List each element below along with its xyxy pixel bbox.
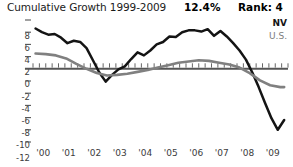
x-axis-tick-label: '05 bbox=[159, 148, 183, 158]
x-axis-tick-label: '00 bbox=[31, 148, 55, 158]
series-line-nv bbox=[36, 29, 285, 130]
x-axis-tick-label: '01 bbox=[57, 148, 81, 158]
x-axis-tick-label: '09 bbox=[261, 148, 285, 158]
series-line-us bbox=[36, 54, 285, 88]
chart-plot-area bbox=[0, 16, 293, 146]
x-axis-tick-label: '06 bbox=[184, 148, 208, 158]
page-title: Cumulative Growth 1999-2009 bbox=[7, 1, 166, 13]
chart-screenshot: Cumulative Growth 1999-2009 12.4% Rank: … bbox=[0, 0, 293, 167]
line-chart-svg bbox=[0, 16, 293, 146]
rank-badge: Rank: 4 bbox=[238, 1, 283, 13]
chart-header: Cumulative Growth 1999-2009 12.4% Rank: … bbox=[0, 0, 293, 16]
x-axis-tick-label: '08 bbox=[235, 148, 259, 158]
x-axis-labels: '00'01'02'03'04'05'06'07'08'09 bbox=[0, 148, 293, 164]
x-axis-tick-label: '04 bbox=[133, 148, 157, 158]
x-axis-tick-label: '07 bbox=[210, 148, 234, 158]
x-axis-tick-label: '03 bbox=[108, 148, 132, 158]
growth-value: 12.4% bbox=[184, 1, 220, 13]
x-axis-tick-label: '02 bbox=[82, 148, 106, 158]
